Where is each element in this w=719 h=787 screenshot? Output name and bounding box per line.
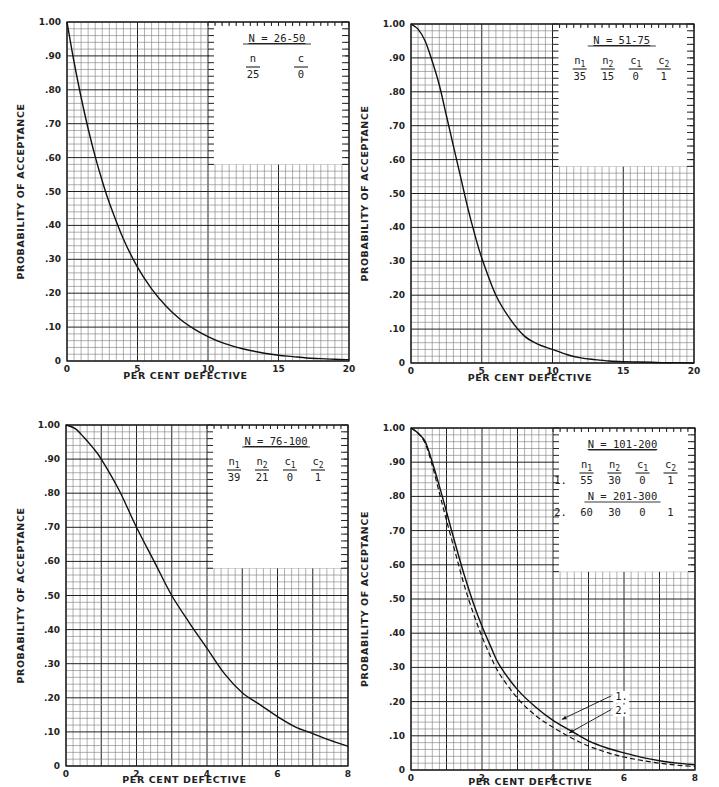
curve-annotation-2: 2.	[569, 704, 629, 733]
x-axis-title: PER CENT DEFECTIVE	[468, 776, 592, 787]
x-tick-label: 6	[621, 773, 627, 783]
y-tick-label: .60	[389, 560, 405, 570]
y-tick-label: .40	[389, 628, 405, 638]
legend-box: N = 101-200n1n2c1c21.553001N = 201-3002.…	[553, 428, 695, 572]
legend-cell: 0	[639, 474, 645, 486]
legend-cell: 60	[580, 506, 593, 518]
y-tick-label: .70	[389, 526, 405, 536]
chart-panel-4: N = 101-200n1n2c1c21.553001N = 201-3002.…	[0, 0, 719, 787]
y-axis-title: PROBABILITY OF ACCEPTANCE	[359, 511, 370, 687]
y-tick-label: .80	[389, 491, 405, 501]
legend-row-label: 1.	[554, 474, 567, 486]
y-tick-label: 0	[399, 765, 405, 775]
legend-row-label: 2.	[554, 506, 567, 518]
y-tick-label: .50	[389, 594, 405, 604]
annotation-label: 1.	[615, 690, 628, 702]
legend-cell: 30	[608, 474, 621, 486]
y-tick-label: .10	[389, 731, 405, 741]
y-tick-label: 1.00	[383, 423, 405, 433]
legend-cell: 30	[608, 506, 621, 518]
y-tick-label: .90	[389, 457, 405, 467]
legend-cell: 55	[580, 474, 593, 486]
y-tick-label: .30	[389, 662, 405, 672]
legend-cell: 1	[667, 474, 673, 486]
legend-heading: N = 101-200	[588, 438, 658, 450]
legend-cell: 0	[639, 506, 645, 518]
annotation-arrow	[562, 696, 611, 719]
annotation-label: 2.	[615, 704, 628, 716]
legend-heading-2: N = 201-300	[588, 490, 658, 502]
x-tick-label: 8	[692, 773, 698, 783]
legend-cell: 1	[667, 506, 673, 518]
y-tick-label: .20	[389, 697, 405, 707]
x-tick-label: 0	[408, 773, 414, 783]
